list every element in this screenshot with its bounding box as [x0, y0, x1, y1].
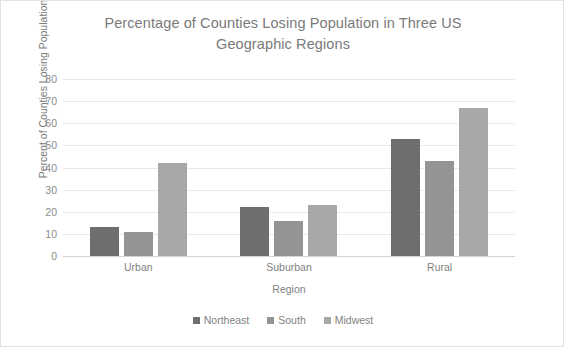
y-tick-label: 30 — [23, 184, 57, 196]
legend-item-south[interactable]: South — [267, 314, 305, 326]
x-tick-label-suburban: Suburban — [266, 261, 312, 273]
y-tick-label: 50 — [23, 139, 57, 151]
bar-midwest-suburban[interactable] — [308, 205, 337, 256]
x-tick-label-urban: Urban — [124, 261, 153, 273]
legend-swatch-icon — [267, 317, 274, 324]
legend-label: South — [278, 314, 305, 326]
legend-label: Midwest — [335, 314, 374, 326]
y-tick-label: 80 — [23, 73, 57, 85]
y-tick-label: 70 — [23, 95, 57, 107]
legend-label: Northeast — [204, 314, 250, 326]
y-tick-label: 0 — [23, 250, 57, 262]
legend-item-midwest[interactable]: Midwest — [324, 314, 374, 326]
x-tick-label-rural: Rural — [427, 261, 452, 273]
bar-northeast-rural[interactable] — [391, 139, 420, 256]
y-tick-label: 60 — [23, 117, 57, 129]
bar-group — [214, 79, 365, 256]
gridline-0 — [63, 256, 515, 257]
bar-south-suburban[interactable] — [274, 221, 303, 256]
bar-northeast-urban[interactable] — [90, 227, 119, 256]
y-tick-label: 40 — [23, 162, 57, 174]
bar-midwest-urban[interactable] — [158, 163, 187, 256]
chart-title: Percentage of Counties Losing Population… — [61, 13, 505, 55]
plot-area — [63, 79, 515, 256]
legend-item-northeast[interactable]: Northeast — [193, 314, 250, 326]
bar-group — [63, 79, 214, 256]
bar-group — [364, 79, 515, 256]
y-tick-label: 10 — [23, 228, 57, 240]
legend-swatch-icon — [324, 317, 331, 324]
legend-swatch-icon — [193, 317, 200, 324]
chart-container: Percentage of Counties Losing Population… — [0, 0, 564, 347]
chart-title-line-2: Geographic Regions — [61, 34, 505, 55]
bar-south-rural[interactable] — [425, 161, 454, 256]
bar-northeast-suburban[interactable] — [240, 207, 269, 256]
chart-title-line-1: Percentage of Counties Losing Population… — [61, 13, 505, 34]
bar-south-urban[interactable] — [124, 232, 153, 256]
y-tick-label: 20 — [23, 206, 57, 218]
x-axis-title: Region — [63, 283, 515, 295]
chart-legend: NortheastSouthMidwest — [1, 314, 564, 326]
bar-midwest-rural[interactable] — [459, 108, 488, 256]
x-axis-category-labels: UrbanSuburbanRural — [63, 261, 515, 277]
